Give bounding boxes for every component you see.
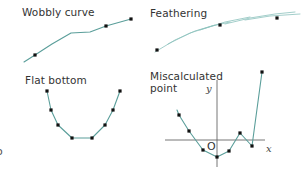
- data-point: [56, 123, 59, 126]
- data-point: [260, 70, 263, 73]
- data-point: [201, 148, 204, 151]
- panel-title-miscalculated-point: Miscalculated point: [150, 70, 230, 94]
- x-axis-label: x: [266, 143, 272, 154]
- data-point: [103, 123, 106, 126]
- flat-bottom-plot: [45, 89, 121, 139]
- feather-stroke: [245, 14, 300, 20]
- feather-stroke: [155, 25, 215, 52]
- y-axis-label: y: [206, 83, 212, 94]
- data-point: [33, 53, 36, 56]
- data-point: [155, 48, 158, 51]
- data-point: [45, 89, 48, 92]
- data-point: [129, 17, 132, 20]
- panel-title-feathering: Feathering: [150, 7, 207, 19]
- data-point: [218, 23, 221, 26]
- wobbly-curve-plot: [24, 17, 133, 62]
- data-point: [118, 89, 121, 92]
- data-point: [215, 155, 218, 158]
- data-point: [275, 16, 278, 19]
- flat-bottom-line: [47, 91, 120, 138]
- data-point: [227, 149, 230, 152]
- data-point: [238, 131, 241, 134]
- data-point: [111, 108, 114, 111]
- origin-label: O: [207, 140, 216, 153]
- panel-title-wobbly-curve: Wobbly curve: [22, 6, 95, 18]
- data-point: [70, 136, 73, 139]
- data-point: [187, 129, 190, 132]
- wobbly-curve-line: [24, 19, 131, 62]
- data-point: [177, 113, 180, 116]
- data-point: [90, 136, 93, 139]
- data-point: [104, 24, 107, 27]
- data-point: [250, 144, 253, 147]
- data-point: [49, 108, 52, 111]
- margin-text-fragment: o: [0, 145, 3, 158]
- panel-title-flat-bottom: Flat bottom: [25, 74, 87, 86]
